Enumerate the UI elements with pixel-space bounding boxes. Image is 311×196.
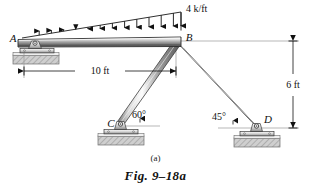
support-d	[240, 124, 274, 136]
node-label-a: A	[9, 32, 17, 44]
subfigure-label: (a)	[0, 153, 311, 163]
figure-caption: Fig. 9–18a	[0, 168, 311, 184]
dimension-label-10ft: 10 ft	[91, 65, 110, 76]
node-label-b: B	[186, 31, 193, 43]
angle-label-60: 60°	[132, 109, 146, 120]
distributed-load-label: 4 k/ft	[186, 3, 208, 14]
reference-lines	[24, 41, 299, 128]
member-cb	[118, 44, 179, 125]
truss-diagram: A B C D 4 k/ft 10 ft 6 ft 60° 45°	[0, 0, 311, 196]
node-label-c: C	[107, 117, 115, 129]
ground-block-a	[13, 53, 59, 65]
distributed-load-arrows	[22, 12, 181, 38]
angle-label-45: 45°	[212, 111, 226, 122]
beam-ab	[18, 37, 181, 47]
ground-block-d	[234, 136, 280, 148]
node-label-d: D	[263, 113, 272, 125]
figure-root: A B C D 4 k/ft 10 ft 6 ft 60° 45° (a) Fi…	[0, 0, 311, 196]
dimension-label-6ft: 6 ft	[286, 79, 300, 90]
ground-block-c	[98, 134, 144, 146]
